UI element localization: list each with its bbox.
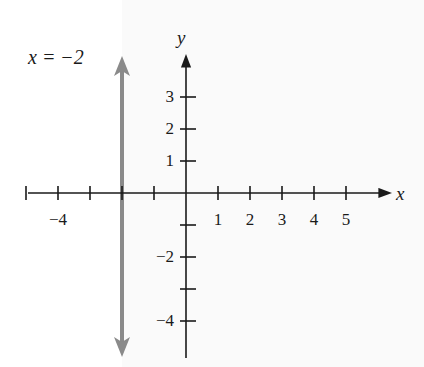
x-axis-label: x	[396, 184, 404, 203]
y-tick-label-3: 3	[140, 88, 174, 105]
vertical-line-x-equals-minus-2	[114, 56, 130, 357]
y-axis-label: y	[177, 28, 185, 47]
y-tick-label--2: −2	[140, 248, 174, 265]
x-axis	[26, 186, 380, 200]
y-tick-label--4: −4	[140, 312, 174, 329]
equation-annotation-label: x = −2	[28, 47, 84, 67]
x-tick-label-3: 3	[267, 211, 297, 228]
y-tick-label-1: 1	[140, 152, 174, 169]
x-tick-label-1: 1	[203, 211, 233, 228]
y-tick-label-2: 2	[140, 120, 174, 137]
graph-screenshot: x = −2 x y −4 1 2 3 4 5 3 2 1 −2 −4	[0, 0, 424, 367]
x-tick-label-5: 5	[331, 211, 361, 228]
x-tick-label-4: 4	[299, 211, 329, 228]
x-tick-label--4: −4	[43, 211, 73, 228]
x-tick-label-2: 2	[235, 211, 265, 228]
y-axis	[180, 66, 196, 358]
